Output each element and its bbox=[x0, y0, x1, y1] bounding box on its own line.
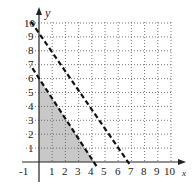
svg-text:4: 4 bbox=[88, 165, 94, 177]
svg-text:10: 10 bbox=[164, 165, 176, 177]
x-axis-arrow-icon bbox=[178, 159, 186, 165]
y-axis-label: y bbox=[44, 6, 51, 20]
svg-text:3: 3 bbox=[28, 114, 34, 126]
svg-text:2: 2 bbox=[62, 165, 68, 177]
x-axis-label: x bbox=[181, 168, 186, 178]
svg-text:5: 5 bbox=[101, 165, 107, 177]
svg-text:9: 9 bbox=[154, 165, 160, 177]
svg-text:7: 7 bbox=[128, 165, 134, 177]
x-tick-labels: -1 1 2 3 4 5 6 7 8 9 10 bbox=[19, 165, 176, 177]
y-axis-arrow-icon bbox=[36, 7, 42, 15]
svg-text:6: 6 bbox=[115, 165, 121, 177]
svg-text:2: 2 bbox=[28, 128, 34, 140]
svg-text:-1: -1 bbox=[19, 165, 28, 177]
chart-canvas: y x -1 1 2 3 4 5 6 7 8 9 10 1 2 3 4 5 6 … bbox=[0, 0, 192, 190]
y-tick-labels: 1 2 3 4 5 6 7 8 9 10 bbox=[24, 17, 36, 154]
svg-text:5: 5 bbox=[28, 86, 34, 98]
svg-text:7: 7 bbox=[28, 58, 34, 70]
svg-text:8: 8 bbox=[141, 165, 147, 177]
svg-text:9: 9 bbox=[28, 30, 34, 42]
svg-text:8: 8 bbox=[28, 44, 34, 56]
svg-text:3: 3 bbox=[75, 165, 81, 177]
svg-text:4: 4 bbox=[28, 100, 34, 112]
svg-text:6: 6 bbox=[28, 72, 34, 84]
svg-text:1: 1 bbox=[49, 165, 55, 177]
svg-text:10: 10 bbox=[24, 17, 36, 29]
svg-text:1: 1 bbox=[28, 142, 34, 154]
